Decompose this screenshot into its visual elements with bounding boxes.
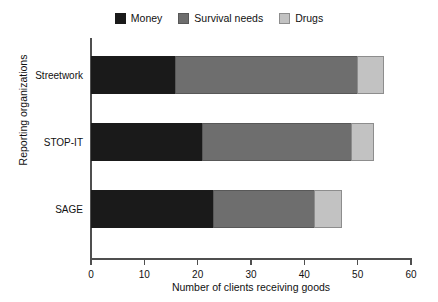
x-axis-title: Number of clients receiving goods bbox=[91, 281, 411, 293]
plot-area: 0102030405060 bbox=[91, 38, 411, 260]
x-tick-label-60: 60 bbox=[405, 269, 416, 280]
x-tick-label-40: 40 bbox=[299, 269, 310, 280]
legend-item-survival-needs: Survival needs bbox=[178, 13, 263, 24]
y-axis-label-sage: SAGE bbox=[55, 204, 83, 215]
bar-segment-stop-it-money bbox=[91, 123, 203, 161]
legend-swatch-money-icon bbox=[115, 13, 126, 24]
x-tick-label-30: 30 bbox=[245, 269, 256, 280]
x-tick-0 bbox=[90, 260, 91, 265]
x-tick-10 bbox=[144, 260, 145, 265]
y-axis-label-streetwork: Streetwork bbox=[35, 70, 83, 81]
y-axis-label-stop-it: STOP-IT bbox=[44, 137, 83, 148]
x-tick-50 bbox=[357, 260, 358, 265]
bar-group-streetwork bbox=[91, 56, 384, 94]
bar-segment-sage-survival-needs bbox=[213, 190, 315, 228]
bar-group-stop-it bbox=[91, 123, 374, 161]
legend-swatch-drugs-icon bbox=[279, 13, 290, 24]
bar-segment-sage-drugs bbox=[314, 190, 342, 228]
x-tick-60 bbox=[410, 260, 411, 265]
x-tick-label-10: 10 bbox=[139, 269, 150, 280]
bar-segment-stop-it-survival-needs bbox=[202, 123, 352, 161]
x-tick-40 bbox=[304, 260, 305, 265]
x-tick-label-0: 0 bbox=[88, 269, 94, 280]
bar-segment-streetwork-drugs bbox=[357, 56, 385, 94]
legend-swatch-survival-needs-icon bbox=[178, 13, 189, 24]
stacked-bar-chart: Money Survival needs Drugs Reporting org… bbox=[0, 0, 438, 302]
bar-segment-streetwork-survival-needs bbox=[175, 56, 357, 94]
bar-segment-stop-it-drugs bbox=[351, 123, 373, 161]
legend-item-drugs: Drugs bbox=[279, 13, 323, 24]
bar-group-sage bbox=[91, 190, 342, 228]
legend-label-money: Money bbox=[131, 13, 163, 24]
legend-item-money: Money bbox=[115, 13, 163, 24]
legend-label-survival-needs: Survival needs bbox=[194, 13, 263, 24]
x-tick-label-20: 20 bbox=[192, 269, 203, 280]
chart-legend: Money Survival needs Drugs bbox=[0, 13, 438, 24]
x-tick-label-50: 50 bbox=[352, 269, 363, 280]
y-axis-category-labels: StreetworkSTOP-ITSAGE bbox=[0, 38, 91, 260]
bar-segment-sage-money bbox=[91, 190, 214, 228]
x-tick-30 bbox=[250, 260, 251, 265]
bar-segment-streetwork-money bbox=[91, 56, 176, 94]
x-tick-20 bbox=[197, 260, 198, 265]
legend-label-drugs: Drugs bbox=[295, 13, 323, 24]
